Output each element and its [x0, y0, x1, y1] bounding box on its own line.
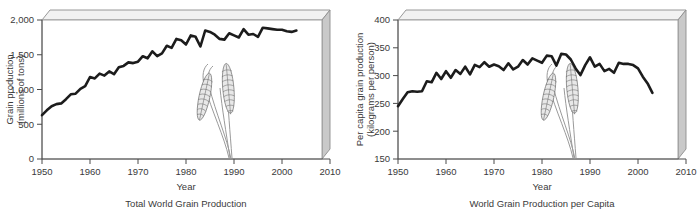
chart-box-top-face — [398, 10, 686, 20]
x-axis-title: Year — [532, 181, 551, 192]
x-tick-label-2010: 2010 — [319, 166, 340, 177]
y-tick-label-2000: 2,000 — [10, 14, 34, 25]
grain-production-figure: 0 500 1,000 1,500 2,000 1950 1960 1970 1… — [0, 0, 699, 215]
x-axis-title: Year — [176, 181, 195, 192]
y-tick-label-0: 0 — [29, 153, 34, 164]
panel-caption-per-capita: World Grain Production per Capita — [469, 198, 615, 209]
x-tick-label-1970: 1970 — [127, 166, 148, 177]
x-tick-label-2010: 2010 — [675, 166, 696, 177]
chart-svg-total: 0 500 1,000 1,500 2,000 1950 1960 1970 1… — [0, 0, 349, 215]
chart-box-side-face — [678, 10, 686, 159]
y-axis-title-line2: (millions of tons) — [15, 55, 26, 124]
y-axis-ticks — [393, 20, 398, 159]
y-axis-ticks — [37, 20, 42, 159]
x-tick-label-1950: 1950 — [387, 166, 408, 177]
x-tick-label-1990: 1990 — [579, 166, 600, 177]
y-tick-label-150: 150 — [374, 153, 390, 164]
y-tick-label-200: 200 — [374, 126, 390, 137]
chart-plot-face — [398, 20, 678, 159]
y-tick-label-350: 350 — [374, 42, 390, 53]
chart-panel-world-grain-production-per-capita: 150 200 250 300 350 400 1950 1960 1970 1… — [350, 0, 699, 215]
x-tick-label-1970: 1970 — [483, 166, 504, 177]
chart-panel-total-world-grain-production: 0 500 1,000 1,500 2,000 1950 1960 1970 1… — [0, 0, 349, 215]
y-tick-label-400: 400 — [374, 14, 390, 25]
chart-svg-percapita: 150 200 250 300 350 400 1950 1960 1970 1… — [350, 0, 699, 215]
panel-caption-total: Total World Grain Production — [125, 198, 246, 209]
x-axis-ticks — [42, 159, 330, 164]
y-axis-title-line2: (kilograms per person) — [365, 42, 376, 137]
x-tick-label-1960: 1960 — [79, 166, 100, 177]
x-tick-label-1980: 1980 — [175, 166, 196, 177]
x-tick-label-1950: 1950 — [31, 166, 52, 177]
x-tick-label-2000: 2000 — [627, 166, 648, 177]
y-axis-title-line1: Per capita grain production — [354, 33, 365, 147]
chart-box-side-face — [322, 10, 330, 159]
y-tick-label-300: 300 — [374, 70, 390, 81]
x-tick-label-2000: 2000 — [271, 166, 292, 177]
chart-box-top-face — [42, 10, 330, 20]
x-tick-label-1960: 1960 — [435, 166, 456, 177]
x-axis-ticks — [398, 159, 686, 164]
x-tick-label-1990: 1990 — [223, 166, 244, 177]
y-axis-title-line1: Grain production — [4, 54, 15, 124]
y-tick-label-250: 250 — [374, 98, 390, 109]
x-tick-label-1980: 1980 — [531, 166, 552, 177]
